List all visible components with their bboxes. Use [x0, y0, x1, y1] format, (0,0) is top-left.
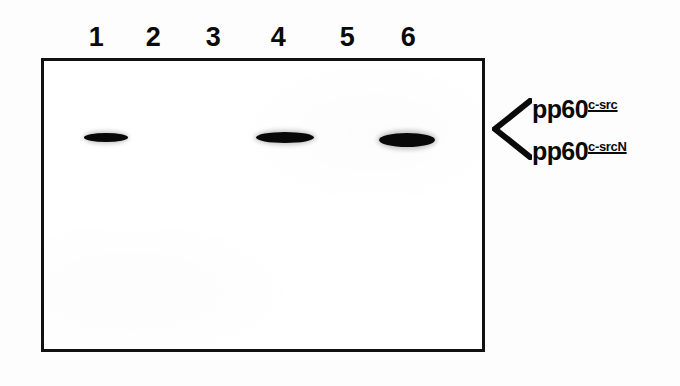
label-pp60-c-src-base: pp60 — [532, 95, 588, 123]
lane-number-6: 6 — [391, 22, 425, 52]
lane-number-2: 2 — [136, 22, 170, 52]
western-blot-figure: 1 2 3 4 5 6 pp60c-src pp60c-srcN — [0, 0, 680, 386]
protein-band-lane-4 — [256, 132, 314, 143]
bracket-arrow-icon — [492, 98, 532, 160]
lane-number-4: 4 — [261, 22, 295, 52]
lane-number-5: 5 — [330, 22, 364, 52]
protein-band-lane-1 — [84, 133, 128, 142]
label-pp60-c-src: pp60c-src — [532, 95, 618, 124]
lane-number-1: 1 — [79, 22, 113, 52]
label-pp60-c-srcN-base: pp60 — [532, 137, 588, 165]
gel-surface — [44, 61, 482, 349]
protein-band-lane-6 — [379, 133, 435, 147]
gel-box — [41, 58, 485, 352]
label-pp60-c-src-superscript: c-src — [588, 97, 618, 112]
label-pp60-c-srcN: pp60c-srcN — [532, 137, 627, 166]
label-pp60-c-srcN-superscript: c-srcN — [588, 139, 627, 154]
lane-number-3: 3 — [196, 22, 230, 52]
